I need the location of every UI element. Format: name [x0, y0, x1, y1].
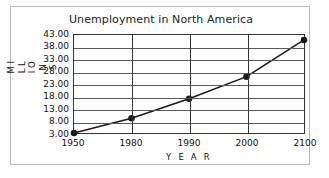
- x-axis-tick-labels: 19501980199020002100: [73, 138, 305, 152]
- data-point-marker: [71, 130, 78, 136]
- data-line: [74, 40, 304, 133]
- y-axis-tick-label: 23.00: [13, 80, 69, 89]
- x-axis-tick-label: 2100: [280, 138, 329, 148]
- data-point-marker: [301, 37, 308, 43]
- y-axis-tick-label: 33.00: [13, 55, 69, 64]
- gridline-vertical: [132, 35, 133, 133]
- gridline-horizontal: [74, 73, 304, 74]
- gridline-vertical: [248, 35, 249, 133]
- y-axis-tick-label: 43.00: [13, 30, 69, 39]
- x-axis-tick-label: 2000: [222, 138, 272, 148]
- x-axis-tick-label: 1950: [48, 138, 98, 148]
- x-axis-tick-label: 1990: [164, 138, 214, 148]
- gridline-horizontal: [74, 98, 304, 99]
- gridline-horizontal: [74, 123, 304, 124]
- y-axis-tick-label: 38.00: [13, 42, 69, 51]
- y-axis-tick-label: 28.00: [13, 67, 69, 76]
- gridline-horizontal: [74, 60, 304, 61]
- y-axis-tick-label: 18.00: [13, 92, 69, 101]
- chart-title: Unemployment in North America: [11, 13, 311, 26]
- series-line: [74, 35, 304, 133]
- plot-area: [73, 34, 305, 134]
- data-point-marker: [186, 95, 193, 101]
- gridline-vertical: [190, 35, 191, 133]
- chart-frame: Unemployment in North America M I L L I …: [10, 6, 310, 165]
- y-axis-tick-label: 8.00: [13, 117, 69, 126]
- x-axis-title: Y E A R: [73, 152, 305, 162]
- x-axis-tick-label: 1980: [106, 138, 156, 148]
- gridline-horizontal: [74, 85, 304, 86]
- gridline-horizontal: [74, 110, 304, 111]
- y-axis-tick-label: 13.00: [13, 105, 69, 114]
- y-axis-tick-labels: 43.0038.0033.0028.0023.0018.0013.008.003…: [11, 34, 69, 134]
- gridline-horizontal: [74, 48, 304, 49]
